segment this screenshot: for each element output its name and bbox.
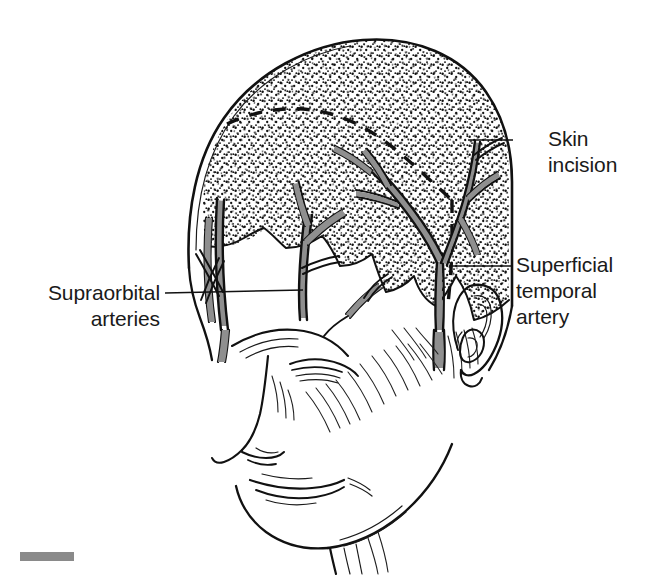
scale-bar <box>20 552 74 561</box>
label-skin-incision-line1: Skin <box>548 127 588 150</box>
label-superficial-temporal-artery: Superficial temporal artery <box>516 253 613 328</box>
label-skin-incision: Skin incision <box>548 127 617 176</box>
label-skin-incision-line2: incision <box>548 153 617 176</box>
label-supraorbital-arteries-line1: Supraorbital <box>48 281 160 304</box>
figure-root: Skin incision Superficial temporal arter… <box>0 0 661 578</box>
label-superficial-temporal-artery-line1: Superficial <box>516 253 613 276</box>
anatomy-illustration: Skin incision Superficial temporal arter… <box>0 0 661 578</box>
label-supraorbital-arteries-line2: arteries <box>91 307 160 330</box>
label-supraorbital-arteries: Supraorbital arteries <box>48 281 160 330</box>
leader-supraorbital-arteries <box>165 290 303 293</box>
supraorbital-arteries <box>196 198 229 362</box>
anterior-temple-branch <box>324 274 392 336</box>
label-superficial-temporal-artery-line2: temporal <box>516 279 597 302</box>
label-superficial-temporal-artery-line3: artery <box>516 305 570 328</box>
